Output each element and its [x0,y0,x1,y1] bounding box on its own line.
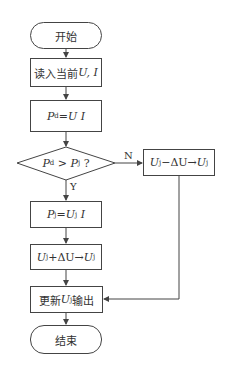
decision-text: Pd > Pj ? [17,153,115,173]
assign-arrow-icon: → [188,156,197,169]
no-label: N [124,150,133,161]
pd-lhs: P [47,110,54,123]
pd-rhs: U I [68,110,85,123]
pd-eq: = [59,110,68,123]
dec-u: U [150,156,159,169]
pj-eq: = [57,208,66,221]
read-vars: U, I [78,66,98,79]
read-prefix: 读入当前 [34,65,78,81]
yes-label: Y [70,181,77,192]
dec-q: ? [80,157,89,170]
inc-t: U [84,251,93,264]
dec-op: > [54,157,70,170]
pj-box: Pj=Uj I [30,201,102,228]
end-label: 结束 [55,332,77,348]
inc-opr: +ΔU [48,251,74,264]
dec-opr: −ΔU [161,156,187,169]
inc-t-sub: j [93,253,95,261]
pj-rest: I [77,208,85,221]
dec-t: U [197,156,206,169]
pj-u: U [66,208,75,221]
dec-b: P [71,157,78,170]
update-prefix: 更新 [39,292,61,308]
dec-a: P [42,157,49,170]
read-input-box: 读入当前U, I [30,58,102,87]
dec-t-sub: j [206,159,208,167]
assign-arrow-icon: → [75,251,84,264]
pd-box: Pd=U I [30,100,102,132]
update-u: U [61,293,70,306]
update-output-box: 更新Uj输出 [30,286,103,313]
start-terminal: 开始 [30,22,102,49]
update-suffix: 输出 [72,292,94,308]
decrement-box: Uj−ΔU→Uj [143,149,215,176]
increment-box: Uj+ΔU→Uj [30,244,102,270]
start-label: 开始 [55,28,77,44]
end-terminal: 结束 [30,325,102,354]
arrow-dec-update [104,176,179,299]
inc-u: U [37,251,46,264]
